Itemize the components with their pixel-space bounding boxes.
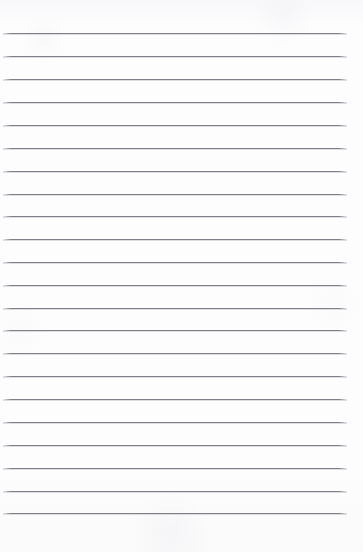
ruled-line bbox=[3, 513, 347, 514]
scanned-page bbox=[0, 0, 363, 552]
ruled-line-right-cap bbox=[339, 513, 347, 514]
writing-area bbox=[3, 33, 347, 513]
ruled-line-left-cap bbox=[3, 513, 11, 514]
